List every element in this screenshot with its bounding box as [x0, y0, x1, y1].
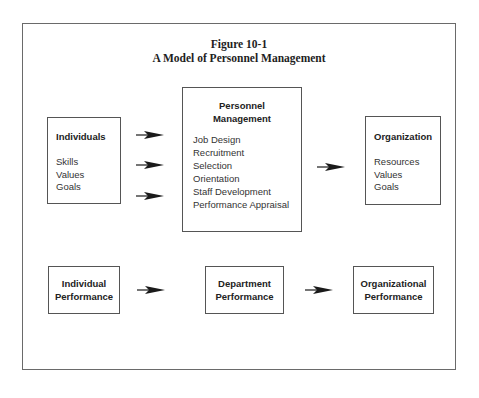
- label-line: Individual: [55, 277, 113, 291]
- organizational-performance-box: Organizational Performance: [353, 266, 434, 314]
- organization-box: Organization Resources Values Goals: [365, 116, 441, 205]
- label-line: Performance: [55, 290, 113, 304]
- pm-item: Orientation: [193, 172, 301, 185]
- individuals-heading: Individuals: [56, 130, 120, 143]
- heading-line: Personnel: [183, 99, 301, 112]
- organizational-performance-label: Organizational Performance: [361, 277, 427, 304]
- individuals-box: Individuals Skills Values Goals: [47, 117, 121, 204]
- personnel-management-box: Personnel Management Job Design Recruitm…: [182, 87, 302, 232]
- pm-item: Recruitment: [193, 146, 301, 159]
- figure-number: Figure 10-1: [22, 37, 456, 51]
- pm-item: Job Design: [193, 133, 301, 146]
- arrow-right-icon: [136, 161, 164, 169]
- individuals-items: Skills Values Goals: [56, 156, 120, 194]
- department-performance-box: Department Performance: [205, 266, 284, 314]
- figure-title: Figure 10-1 A Model of Personnel Managem…: [22, 37, 456, 65]
- individual-performance-label: Individual Performance: [55, 277, 113, 304]
- pm-item: Staff Development: [193, 185, 301, 198]
- arrow-right-icon: [317, 163, 345, 171]
- arrow-right-icon: [136, 192, 164, 200]
- arrow-right-icon: [305, 286, 333, 294]
- individuals-item: Skills: [56, 156, 120, 169]
- organization-heading: Organization: [374, 130, 440, 143]
- figure-caption: A Model of Personnel Management: [22, 51, 456, 65]
- individuals-item: Goals: [56, 181, 120, 194]
- label-line: Department: [215, 277, 273, 291]
- label-line: Performance: [215, 290, 273, 304]
- organization-item: Values: [374, 169, 440, 182]
- label-line: Organizational: [361, 277, 427, 291]
- label-line: Performance: [361, 290, 427, 304]
- arrow-right-icon: [136, 131, 164, 139]
- individual-performance-box: Individual Performance: [48, 266, 120, 314]
- pm-item: Performance Appraisal: [193, 198, 301, 211]
- pm-item: Selection: [193, 159, 301, 172]
- individuals-item: Values: [56, 169, 120, 182]
- personnel-management-items: Job Design Recruitment Selection Orienta…: [193, 133, 301, 211]
- department-performance-label: Department Performance: [215, 277, 273, 304]
- organization-item: Resources: [374, 156, 440, 169]
- personnel-management-heading: Personnel Management: [183, 99, 301, 125]
- arrow-right-icon: [137, 286, 165, 294]
- organization-items: Resources Values Goals: [374, 156, 440, 194]
- heading-line: Management: [183, 112, 301, 125]
- organization-item: Goals: [374, 181, 440, 194]
